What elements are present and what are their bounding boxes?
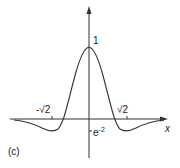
- e-exponent: -2: [99, 126, 105, 133]
- x-axis-label: x: [165, 124, 170, 134]
- x-tick-label-pos-sqrt2: √2: [117, 105, 128, 115]
- y-peak-label: 1: [93, 36, 99, 46]
- chart: 1 -√2 √2 e-2 x (c): [0, 0, 180, 168]
- y-tick-label-e-minus-2: e-2: [93, 126, 105, 138]
- y-axis-arrow-icon: [87, 6, 92, 14]
- panel-label: (c): [8, 147, 20, 157]
- x-tick-label-neg-sqrt2: -√2: [36, 105, 50, 115]
- plot-area: [0, 0, 180, 168]
